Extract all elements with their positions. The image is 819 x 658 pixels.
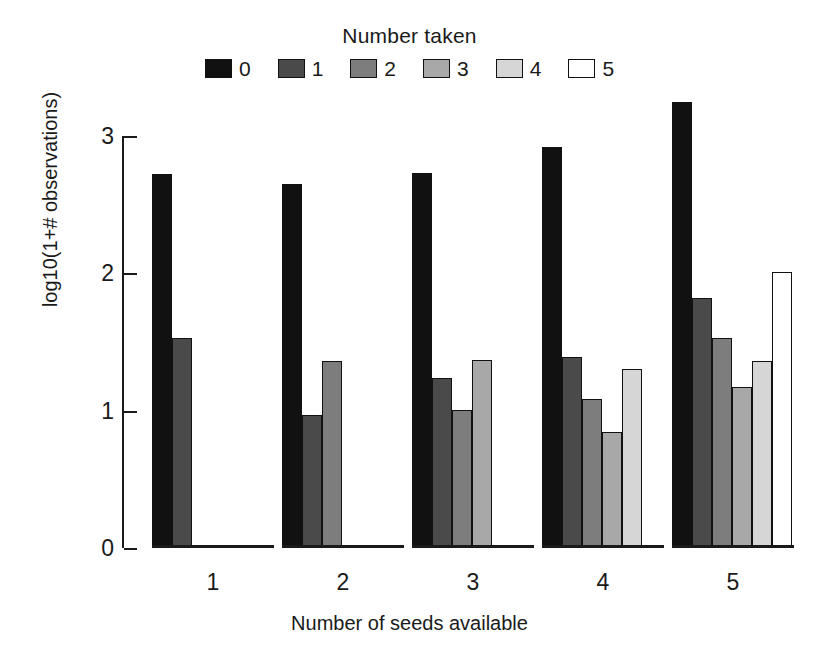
group-baseline <box>282 545 404 548</box>
legend-entry-label: 0 <box>239 58 251 79</box>
bar[interactable] <box>412 173 432 545</box>
bar[interactable] <box>542 147 562 545</box>
bars-container <box>282 96 402 545</box>
bars-container <box>672 96 792 545</box>
legend-entry-label: 2 <box>384 58 396 79</box>
bar[interactable] <box>302 415 322 545</box>
y-axis-tick <box>124 548 137 550</box>
bar-group: 1 <box>152 96 274 548</box>
legend-swatch-icon <box>423 59 450 78</box>
x-axis-tick-label: 1 <box>152 569 274 596</box>
bar[interactable] <box>282 184 302 545</box>
x-axis-title: Number of seeds available <box>0 612 819 635</box>
legend-entry[interactable]: 0 <box>205 58 251 79</box>
x-axis-tick-label: 2 <box>282 569 404 596</box>
y-axis: 0123 <box>122 136 140 548</box>
legend-entry[interactable]: 5 <box>568 58 614 79</box>
x-axis-tick-label: 4 <box>542 569 664 596</box>
legend-entry[interactable]: 1 <box>278 58 324 79</box>
legend-swatch-icon <box>568 59 595 78</box>
y-axis-tick-label: 3 <box>74 125 114 148</box>
bar[interactable] <box>582 399 602 545</box>
bar[interactable] <box>692 298 712 545</box>
y-axis-tick <box>124 411 137 413</box>
plot-area: 0123 12345 <box>140 96 805 548</box>
legend-entry-label: 4 <box>530 58 542 79</box>
bars-container <box>152 96 272 545</box>
legend-entry-label: 3 <box>457 58 469 79</box>
legend-entry-label: 5 <box>602 58 614 79</box>
legend-title: Number taken <box>0 24 819 48</box>
bar[interactable] <box>432 378 452 546</box>
bar-group: 5 <box>672 96 794 548</box>
bar[interactable] <box>602 432 622 545</box>
bar[interactable] <box>772 272 792 545</box>
legend-swatch-icon <box>205 59 232 78</box>
bar[interactable] <box>752 361 772 545</box>
bar-group: 3 <box>412 96 534 548</box>
bar[interactable] <box>672 102 692 545</box>
group-baseline <box>542 545 664 548</box>
legend-entry[interactable]: 3 <box>423 58 469 79</box>
y-axis-title: log10(1+# observations) <box>39 0 62 400</box>
legend-entry[interactable]: 2 <box>350 58 396 79</box>
group-baseline <box>412 545 534 548</box>
bar-group: 2 <box>282 96 404 548</box>
x-axis-tick-label: 3 <box>412 569 534 596</box>
group-baseline <box>672 545 794 548</box>
bar[interactable] <box>172 338 192 545</box>
y-axis-tick-label: 2 <box>74 262 114 285</box>
legend-entry-label: 1 <box>312 58 324 79</box>
bar[interactable] <box>732 387 752 545</box>
group-baseline <box>152 545 274 548</box>
bar[interactable] <box>322 361 342 545</box>
bar[interactable] <box>152 174 172 545</box>
bar[interactable] <box>562 357 582 545</box>
bar[interactable] <box>452 410 472 545</box>
bars-container <box>412 96 532 545</box>
legend-swatch-icon <box>496 59 523 78</box>
legend-swatch-icon <box>350 59 377 78</box>
y-axis-tick-label: 1 <box>74 399 114 422</box>
y-axis-tick <box>124 136 137 138</box>
legend-swatch-icon <box>278 59 305 78</box>
bar-chart-figure: Number taken 012345 log10(1+# observatio… <box>0 0 819 658</box>
y-axis-tick <box>124 273 137 275</box>
bar[interactable] <box>622 369 642 545</box>
bar[interactable] <box>472 360 492 545</box>
bar-group: 4 <box>542 96 664 548</box>
legend-entry[interactable]: 4 <box>496 58 542 79</box>
y-axis-tick-label: 0 <box>74 537 114 560</box>
bar[interactable] <box>712 338 732 545</box>
legend: 012345 <box>0 58 819 79</box>
bars-container <box>542 96 662 545</box>
x-axis-tick-label: 5 <box>672 569 794 596</box>
